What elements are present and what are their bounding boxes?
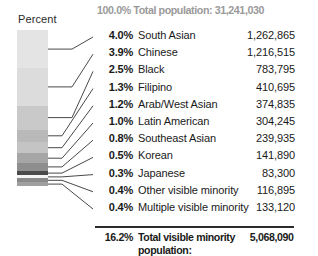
bar-segment xyxy=(17,106,48,130)
table-row: 0.4%Other visible minority116,895 xyxy=(95,184,295,201)
row-percent: 1.2% xyxy=(95,98,133,110)
table-row: 1.3%Filipino410,695 xyxy=(95,81,295,98)
table-row: 1.2%Arab/West Asian374,835 xyxy=(95,98,295,115)
leader-line xyxy=(48,71,93,117)
bar-segment xyxy=(17,130,48,142)
row-category: Japanese xyxy=(138,167,185,179)
row-percent: 0.4% xyxy=(95,201,133,213)
row-category: Arab/West Asian xyxy=(138,98,218,110)
row-percent: 0.3% xyxy=(95,167,133,179)
row-value: 783,795 xyxy=(256,63,295,75)
data-table: 4.0%South Asian1,262,8653.9%Chinese1,216… xyxy=(95,29,295,218)
leader-line xyxy=(48,184,93,209)
table-row: 4.0%South Asian1,262,865 xyxy=(95,29,295,46)
row-category: Chinese xyxy=(138,46,178,58)
percent-axis-label: Percent xyxy=(18,13,57,25)
leader-line xyxy=(48,157,93,173)
leader-line xyxy=(48,140,93,167)
bar-segment xyxy=(17,153,48,163)
table-row: 3.9%Chinese1,216,515 xyxy=(95,46,295,63)
row-percent: 0.4% xyxy=(95,184,133,196)
row-value: 1,262,865 xyxy=(247,29,295,41)
row-category: Filipino xyxy=(138,81,172,93)
total-row: 16.2% Total visible minority population:… xyxy=(95,231,294,256)
leader-line xyxy=(48,54,93,87)
row-category: Black xyxy=(138,63,164,75)
leader-line xyxy=(48,106,93,148)
row-value: 141,890 xyxy=(256,149,295,161)
row-value: 304,245 xyxy=(256,115,295,127)
row-percent: 3.9% xyxy=(95,46,133,58)
bar-segment xyxy=(17,30,48,68)
row-value: 374,835 xyxy=(256,98,295,110)
row-category: Latin American xyxy=(138,115,209,127)
total-value: 5,068,090 xyxy=(250,231,294,243)
row-percent: 0.8% xyxy=(95,132,133,144)
row-value: 83,300 xyxy=(262,167,295,179)
total-separator xyxy=(95,226,294,228)
leader-line xyxy=(48,180,93,192)
row-category: Southeast Asian xyxy=(138,132,216,144)
row-value: 116,895 xyxy=(257,184,295,196)
row-category: Multiple visible minority xyxy=(138,201,249,213)
row-percent: 4.0% xyxy=(95,29,133,41)
table-row: 0.3%Japanese83,300 xyxy=(95,167,295,184)
row-percent: 1.0% xyxy=(95,115,133,127)
row-value: 410,695 xyxy=(256,81,295,93)
row-value: 239,935 xyxy=(256,132,295,144)
leader-line xyxy=(48,37,93,49)
row-category: Korean xyxy=(138,149,173,161)
chart-title: 100.0% Total population: 31,241,030 xyxy=(97,4,292,20)
stacked-bar xyxy=(17,30,48,186)
total-percent: 16.2% xyxy=(98,231,133,243)
table-row: 0.4%Multiple visible minority133,120 xyxy=(95,201,295,218)
row-percent: 0.5% xyxy=(95,149,133,161)
row-percent: 2.5% xyxy=(95,63,133,75)
leader-line xyxy=(48,175,93,177)
row-percent: 1.3% xyxy=(95,81,133,93)
bar-segment xyxy=(17,163,48,171)
row-category: Other visible minority xyxy=(138,184,239,196)
leader-line xyxy=(48,123,93,158)
bar-segment xyxy=(17,68,48,105)
table-row: 1.0%Latin American304,245 xyxy=(95,115,295,132)
bar-segment xyxy=(17,142,48,153)
bar-segment xyxy=(17,182,48,186)
table-row: 0.5%Korean141,890 xyxy=(95,149,295,166)
row-value: 1,216,515 xyxy=(247,46,295,58)
table-row: 0.8%Southeast Asian239,935 xyxy=(95,132,295,149)
leader-line xyxy=(48,89,93,136)
row-category: South Asian xyxy=(138,29,196,41)
total-label: Total visible minority population: xyxy=(138,231,239,256)
table-row: 2.5%Black783,795 xyxy=(95,63,295,80)
row-value: 133,120 xyxy=(256,201,295,213)
